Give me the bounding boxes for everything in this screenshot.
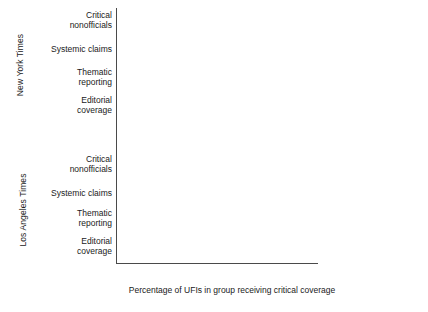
y-axis-line <box>116 8 117 263</box>
category-label-line: Critical <box>86 10 112 20</box>
chart-figure: New York Times Los Angeles Times Critica… <box>0 0 428 312</box>
category-label-lat-critical: Critical nonofficials <box>26 155 112 174</box>
category-label-nyt-systemic: Systemic claims <box>26 45 112 55</box>
category-label-line: coverage <box>77 105 112 115</box>
x-axis-title-text: Percentage of UFIs in group receiving cr… <box>129 285 335 295</box>
category-label-line: Critical <box>86 154 112 164</box>
category-label-line: reporting <box>78 218 112 228</box>
category-label-line: Thematic <box>77 208 112 218</box>
category-label-line: Systemic claims <box>51 188 112 198</box>
plot-area <box>116 8 318 263</box>
category-label-line: Systemic claims <box>51 44 112 54</box>
category-label-line: Thematic <box>77 67 112 77</box>
category-label-nyt-thematic: Thematic reporting <box>26 68 112 87</box>
category-label-line: nonofficials <box>70 164 112 174</box>
x-axis-title: Percentage of UFIs in group receiving cr… <box>0 285 428 295</box>
category-label-line: Editorial <box>81 236 112 246</box>
category-label-lat-thematic: Thematic reporting <box>26 209 112 228</box>
category-label-nyt-editorial: Editorial coverage <box>26 96 112 115</box>
category-label-line: Editorial <box>81 95 112 105</box>
category-label-column: Critical nonofficials Systemic claims Th… <box>22 0 112 312</box>
x-axis-line <box>116 263 318 264</box>
category-label-lat-systemic: Systemic claims <box>26 189 112 199</box>
category-label-line: coverage <box>77 246 112 256</box>
category-label-line: nonofficials <box>70 20 112 30</box>
category-label-nyt-critical: Critical nonofficials <box>26 11 112 30</box>
category-label-line: reporting <box>78 77 112 87</box>
category-label-lat-editorial: Editorial coverage <box>26 237 112 256</box>
